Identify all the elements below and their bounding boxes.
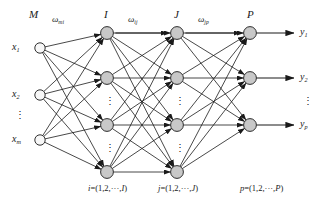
edges-hidden2-to-output bbox=[180, 33, 247, 169]
weight-label-omega-jp: ωjp bbox=[198, 15, 209, 25]
input-label-xm: xm bbox=[12, 134, 21, 145]
weight-subscript-mi: mi bbox=[58, 19, 64, 25]
neural-network-diagram: M I J P ωmi ωij ωjp x1 x2 ⋮ xm y1 y2 ⋮ y… bbox=[0, 0, 318, 202]
index-eq-i: =(1,2,···, bbox=[90, 183, 121, 193]
input-subscript-1: 2 bbox=[16, 93, 19, 100]
layer-label-input-M: M bbox=[29, 9, 38, 20]
index-close-i: ) bbox=[124, 183, 127, 193]
edges-hidden1-to-hidden2 bbox=[110, 33, 174, 172]
layer-label-output-P: P bbox=[247, 9, 254, 20]
layer-label-hidden1-I: I bbox=[104, 9, 108, 20]
hidden1-ellipsis-upper: ⋮ bbox=[105, 96, 115, 106]
output-label-y1: y1 bbox=[300, 27, 308, 38]
network-graph bbox=[0, 0, 318, 202]
hidden2-ellipsis-lower: ⋮ bbox=[175, 143, 185, 153]
index-caption-hidden2: j=(1,2,···,J) bbox=[158, 184, 198, 193]
index-close-j: ) bbox=[195, 183, 198, 193]
weight-subscript-jp: jp bbox=[204, 19, 208, 25]
output-label-yp: yp bbox=[300, 119, 308, 130]
input-ellipsis: ⋮ bbox=[15, 110, 25, 120]
edges-input-to-hidden1 bbox=[42, 34, 103, 169]
index-eq-j: =(1,2,···, bbox=[160, 183, 191, 193]
input-subscript-0: 1 bbox=[16, 46, 19, 53]
weight-subscript-ij: ij bbox=[134, 19, 137, 25]
edges-output-arrows bbox=[256, 33, 294, 125]
index-close-p: ) bbox=[280, 183, 283, 193]
hidden2-ellipsis-upper: ⋮ bbox=[175, 96, 185, 106]
weight-label-omega-mi: ωmi bbox=[52, 15, 64, 25]
input-label-x1: x1 bbox=[12, 42, 20, 53]
input-label-x2: x2 bbox=[12, 89, 20, 100]
hidden1-ellipsis-lower: ⋮ bbox=[105, 143, 115, 153]
output-ellipsis: ⋮ bbox=[303, 96, 313, 106]
output-label-y2: y2 bbox=[300, 72, 308, 83]
layer-label-hidden2-J: J bbox=[174, 9, 179, 20]
input-layer-nodes bbox=[35, 43, 45, 145]
index-eq-p: =(1,2,···, bbox=[244, 183, 275, 193]
index-caption-hidden1: i=(1,2,···,I) bbox=[88, 184, 127, 193]
output-subscript-2: p bbox=[304, 123, 307, 130]
weight-label-omega-ij: ωij bbox=[128, 15, 137, 25]
index-caption-output: p=(1,2,···,P) bbox=[240, 184, 283, 193]
input-subscript-2: m bbox=[16, 138, 20, 145]
output-subscript-0: 1 bbox=[304, 31, 307, 38]
output-subscript-1: 2 bbox=[304, 76, 307, 83]
